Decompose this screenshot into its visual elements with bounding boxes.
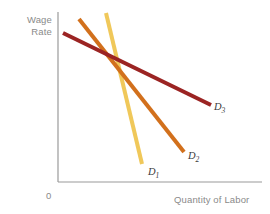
y-axis-label-line1: Wage: [27, 14, 52, 25]
y-axis-label: Wage Rate: [6, 14, 52, 37]
curve-label-d2-sub: 2: [196, 155, 200, 164]
origin-label: 0: [46, 190, 51, 201]
curve-label-d1: D1: [148, 166, 159, 180]
curve-label-d1-name: D: [148, 166, 156, 177]
curve-label-d3: D3: [214, 101, 225, 115]
demand-curve-d1: [106, 13, 142, 164]
curve-label-d2-name: D: [188, 150, 196, 161]
curve-label-d1-sub: 1: [156, 171, 160, 180]
curve-label-d3-sub: 3: [222, 106, 226, 115]
curve-label-d2: D2: [188, 150, 199, 164]
curve-label-d3-name: D: [214, 101, 222, 112]
y-axis-label-line2: Rate: [31, 26, 52, 37]
x-axis-label: Quantity of Labor: [174, 194, 249, 206]
wage-rate-labor-demand-chart: Wage Rate Quantity of Labor 0 D1 D2 D3: [0, 0, 270, 214]
